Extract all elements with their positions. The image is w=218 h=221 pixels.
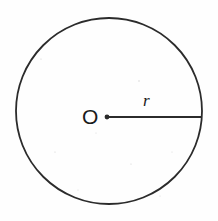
circle-outline: [16, 18, 202, 204]
geometry-canvas: [0, 0, 218, 221]
scan-speckles: [40, 58, 172, 196]
center-point-dot: [105, 115, 110, 120]
circle-radius-figure: O r: [0, 0, 218, 221]
